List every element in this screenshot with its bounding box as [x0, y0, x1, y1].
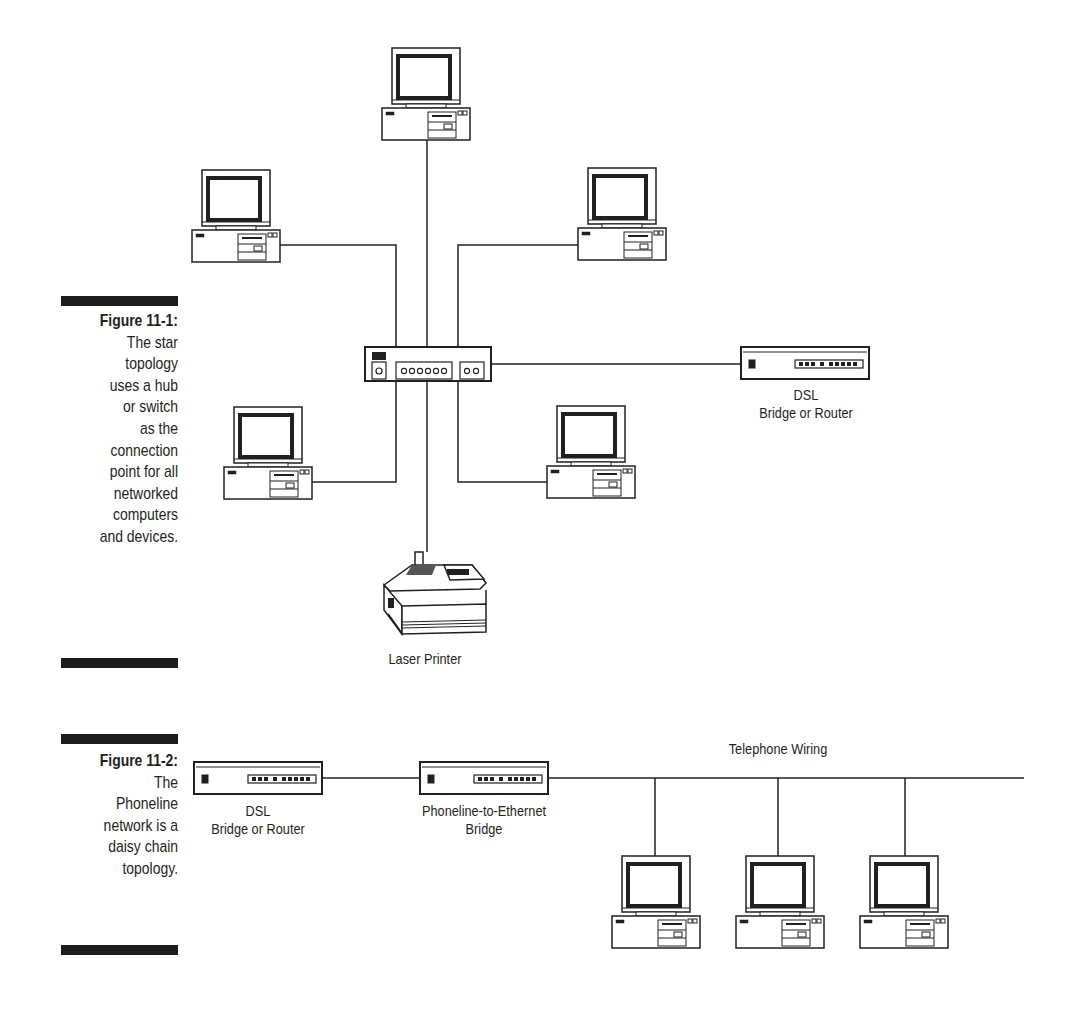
- laser-printer-label: Laser Printer: [366, 650, 485, 668]
- phoneline-ethernet-bridge: [420, 762, 548, 794]
- computer-phoneline-1: [612, 856, 700, 948]
- dsl-bridge-router-fig2: [194, 762, 322, 794]
- computer-lower-left: [224, 407, 312, 499]
- computer-top: [382, 48, 470, 140]
- network-diagrams: [0, 0, 1078, 1018]
- computer-phoneline-3: [860, 856, 948, 948]
- dsl-bridge-router-fig1: [741, 347, 869, 379]
- computer-phoneline-2: [736, 856, 824, 948]
- computer-lower-right: [547, 406, 635, 498]
- telephone-wiring-label: Telephone Wiring: [702, 740, 855, 758]
- laser-printer-icon: [384, 552, 486, 634]
- star-cables: [279, 140, 769, 552]
- computer-upper-left: [192, 170, 280, 262]
- hub-switch: [365, 347, 491, 381]
- phoneline-bridge-label: Phoneline-to-Ethernet Bridge: [399, 802, 569, 838]
- dsl-label-fig2: DSL Bridge or Router: [190, 802, 326, 838]
- dsl-label-fig1: DSL Bridge or Router: [738, 386, 874, 422]
- computer-upper-right: [578, 168, 666, 260]
